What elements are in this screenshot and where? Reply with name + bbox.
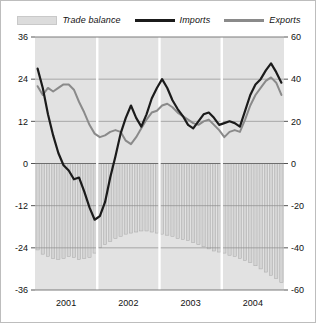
plot-area: 3624120-12-24-36 6040200-20-40-60 200120…: [1, 1, 316, 323]
x-axis-tick-label: 2002: [118, 298, 138, 308]
x-axis-tick-label: 2003: [181, 298, 201, 308]
right-axis-tick-label: 20: [291, 117, 301, 127]
left-axis-tick-label: -24: [15, 243, 28, 253]
left-axis-tick-label: 24: [18, 74, 28, 84]
right-axis-tick-label: 40: [291, 74, 301, 84]
left-axis-ticks: 3624120-12-24-36: [15, 32, 35, 295]
right-axis-tick-label: 60: [291, 32, 301, 42]
left-axis-tick-label: -12: [15, 201, 28, 211]
x-axis-ticks: 2001200220032004: [56, 298, 263, 308]
right-axis-ticks: 6040200-20-40-60: [284, 32, 304, 295]
left-axis-tick-label: -36: [15, 285, 28, 295]
left-axis-tick-label: 12: [18, 117, 28, 127]
right-axis-tick-label: 0: [291, 159, 296, 169]
right-axis-tick-label: -20: [291, 201, 304, 211]
x-axis-tick-label: 2001: [56, 298, 76, 308]
chart-svg: 3624120-12-24-36 6040200-20-40-60 200120…: [1, 1, 316, 323]
chart-container: Trade balance Imports Exports 3624120-12…: [0, 0, 316, 323]
left-axis-tick-label: 36: [18, 32, 28, 42]
left-axis-tick-label: 0: [23, 159, 28, 169]
right-axis-tick-label: -40: [291, 243, 304, 253]
x-axis-tick-label: 2004: [243, 298, 263, 308]
right-axis-tick-label: -60: [291, 285, 304, 295]
